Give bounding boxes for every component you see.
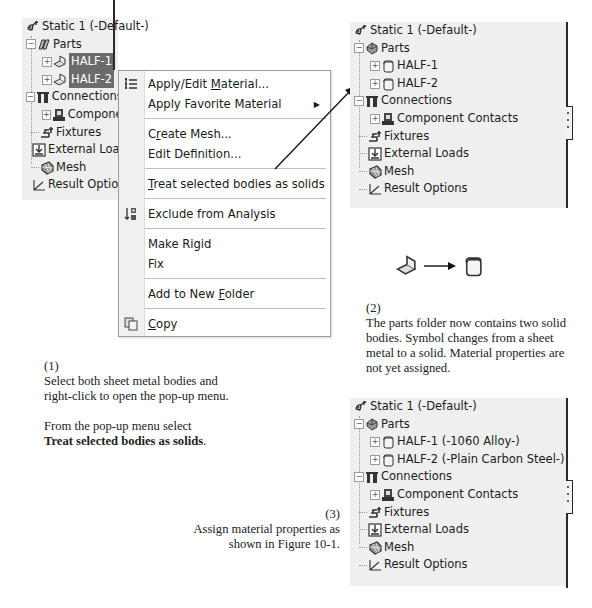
- study-icon: [354, 400, 368, 414]
- tree-connector: [359, 153, 367, 154]
- tree-item-half1[interactable]: + HALF-1 (-1060 Alloy-): [350, 433, 566, 451]
- mesh-icon: [368, 541, 382, 555]
- solid-body-with-material-icon: [381, 435, 395, 449]
- step2-caption: (2) The parts folder now contains two so…: [366, 301, 592, 376]
- collapse-icon[interactable]: −: [354, 472, 364, 482]
- solid-parts-icon: [365, 41, 379, 55]
- tree-item-study[interactable]: Static 1 (-Default-): [350, 398, 566, 416]
- result-options-icon: [368, 558, 382, 572]
- right-bottom-feature-tree: Static 1 (-Default-) − Parts + HALF-1 (-…: [350, 398, 566, 586]
- tree-item-external-loads[interactable]: External Loads: [350, 145, 566, 163]
- tree-item-component-contacts[interactable]: + Component Contacts: [350, 110, 566, 128]
- expand-icon[interactable]: +: [370, 61, 380, 71]
- tree-connector: [359, 136, 367, 137]
- panel-splitter-handle[interactable]: [566, 480, 573, 514]
- panel-splitter-handle[interactable]: [566, 106, 573, 140]
- tree-item-mesh[interactable]: Mesh: [350, 163, 566, 181]
- expand-icon[interactable]: +: [370, 79, 380, 89]
- tree-item-study[interactable]: Static 1 (-Default-): [350, 22, 566, 40]
- component-contacts-icon: [381, 112, 395, 126]
- solid-body-icon: [381, 77, 395, 91]
- tree-item-connections[interactable]: − Connections: [350, 92, 566, 110]
- fixtures-icon: [368, 505, 382, 519]
- component-contacts-icon: [381, 488, 395, 502]
- expand-icon[interactable]: +: [370, 455, 380, 465]
- tree-connector: [359, 529, 367, 530]
- solid-body-with-material-icon: [381, 453, 395, 467]
- tree-item-parts[interactable]: − Parts: [350, 40, 566, 58]
- external-loads-icon: [368, 147, 382, 161]
- solid-body-symbol-icon: [462, 255, 484, 277]
- tree-item-parts[interactable]: − Parts: [350, 416, 566, 434]
- tree-item-result-options[interactable]: Result Options: [350, 556, 566, 574]
- tree-connector: [359, 171, 367, 172]
- tree-item-external-loads[interactable]: External Loads: [350, 521, 566, 539]
- tree-item-component-contacts[interactable]: + Component Contacts: [350, 486, 566, 504]
- collapse-icon[interactable]: −: [354, 96, 364, 106]
- symbol-change-illustration: [396, 255, 484, 277]
- solid-parts-icon: [365, 417, 379, 431]
- external-loads-icon: [368, 523, 382, 537]
- tree-item-fixtures[interactable]: Fixtures: [350, 128, 566, 146]
- tree-item-result-options[interactable]: Result Options: [350, 180, 566, 198]
- collapse-icon[interactable]: −: [354, 43, 364, 53]
- result-options-icon: [368, 182, 382, 196]
- tree-connector: [359, 189, 367, 190]
- solid-body-icon: [381, 59, 395, 73]
- tree-connector: [359, 547, 367, 548]
- right-top-feature-tree: Static 1 (-Default-) − Parts + HALF-1 + …: [350, 22, 566, 208]
- mesh-icon: [368, 165, 382, 179]
- sheet-metal-symbol-icon: [396, 255, 418, 277]
- tree-item-half2[interactable]: + HALF-2: [350, 75, 566, 93]
- fixtures-icon: [368, 129, 382, 143]
- tree-item-fixtures[interactable]: Fixtures: [350, 504, 566, 522]
- tree-connector: [359, 565, 367, 566]
- tree-item-mesh[interactable]: Mesh: [350, 539, 566, 557]
- step1-caption: (1) Select both sheet metal bodies and r…: [44, 359, 324, 449]
- tree-item-half2[interactable]: + HALF-2 (-Plain Carbon Steel-): [350, 451, 566, 469]
- expand-icon[interactable]: +: [370, 114, 380, 124]
- connections-icon: [365, 94, 379, 108]
- study-icon: [354, 24, 368, 38]
- collapse-icon[interactable]: −: [354, 419, 364, 429]
- tree-connector: [359, 512, 367, 513]
- expand-icon[interactable]: +: [370, 437, 380, 447]
- tree-item-connections[interactable]: − Connections: [350, 468, 566, 486]
- step3-caption: (3) Assign material properties as shown …: [180, 507, 340, 552]
- right-arrow-icon: [422, 260, 458, 272]
- tree-item-half1[interactable]: + HALF-1: [350, 57, 566, 75]
- expand-icon[interactable]: +: [370, 490, 380, 500]
- connections-icon: [365, 470, 379, 484]
